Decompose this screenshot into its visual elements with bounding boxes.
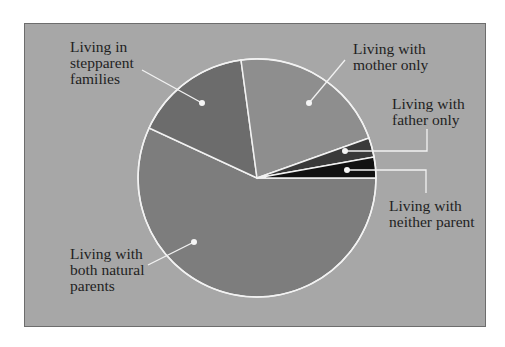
label-both: Living with both natural parents xyxy=(70,246,144,294)
label-stepparent: Living in stepparent families xyxy=(70,39,134,87)
dot-both xyxy=(191,239,197,245)
dot-neither xyxy=(344,167,350,173)
label-father: Living with father only xyxy=(392,96,465,128)
dot-mother xyxy=(306,100,312,106)
label-neither: Living with neither parent xyxy=(389,198,475,230)
dot-stepparent xyxy=(199,100,205,106)
label-mother: Living with mother only xyxy=(353,41,428,73)
dot-father xyxy=(342,148,348,154)
